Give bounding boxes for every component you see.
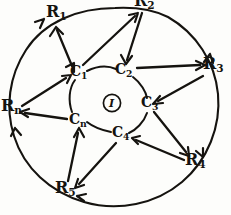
outer-arc-arrowheads	[11, 19, 213, 201]
node-cn-sub: n	[80, 118, 86, 129]
node-rn-base: R	[1, 96, 14, 115]
edge-r3-c3	[153, 76, 203, 104]
node-r2-base: R	[134, 0, 147, 10]
node-c1[interactable]: C1	[70, 64, 87, 80]
edge-c4-r5	[75, 143, 116, 188]
diagram-canvas: I C1 C2 C3 C4 Cn R1 R2 R3 R4 R5 Rn	[0, 0, 231, 215]
node-r4-sub: 4	[198, 158, 205, 170]
arc-cn-c1	[70, 80, 75, 112]
node-rn-sub: n	[14, 104, 21, 116]
node-cn-base: C	[69, 111, 80, 127]
node-r5[interactable]: R5	[55, 180, 75, 198]
node-c2-base: C	[115, 61, 126, 77]
node-r2-sub: 2	[147, 0, 154, 11]
node-c4-base: C	[112, 124, 123, 140]
node-r1[interactable]: R1	[46, 4, 66, 22]
node-r1-sub: 1	[59, 10, 66, 22]
node-c3-sub: 3	[152, 101, 158, 112]
edge-cn-rn	[20, 109, 67, 119]
edge-c2-r3	[137, 61, 205, 70]
node-r1-base: R	[46, 2, 59, 21]
node-cn[interactable]: Cn	[69, 112, 86, 128]
node-r3[interactable]: R3	[203, 56, 223, 74]
arc-c1-c2	[87, 67, 116, 71]
node-r3-base: R	[203, 54, 216, 73]
diagram-svg	[0, 0, 231, 215]
node-rn[interactable]: Rn	[1, 98, 22, 116]
center-node-i: I	[109, 98, 114, 109]
arc-c4-cn	[87, 122, 111, 132]
node-r5-sub: 5	[68, 186, 75, 198]
node-r3-sub: 3	[216, 62, 223, 74]
node-r2[interactable]: R2	[134, 0, 154, 11]
node-c1-base: C	[70, 63, 81, 79]
arrowhead-arc-to-r1	[35, 19, 44, 28]
node-c4-sub: 4	[123, 131, 129, 142]
node-r5-base: R	[55, 178, 68, 197]
node-r4-base: R	[185, 150, 198, 169]
edge-r5-cn	[68, 128, 84, 181]
node-c3-base: C	[141, 94, 152, 110]
node-r4[interactable]: R4	[185, 152, 205, 170]
edge-rn-c1	[22, 75, 71, 106]
node-c2-sub: 2	[126, 68, 132, 79]
node-c1-sub: 1	[81, 70, 87, 81]
node-c3[interactable]: C3	[141, 95, 158, 111]
node-c4[interactable]: C4	[112, 125, 129, 141]
arc-c3-c4	[129, 113, 147, 133]
node-c2[interactable]: C2	[115, 62, 132, 78]
